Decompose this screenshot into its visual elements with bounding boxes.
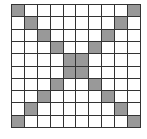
empty-cell — [38, 17, 50, 28]
empty-cell — [12, 17, 24, 28]
empty-cell — [51, 30, 63, 41]
empty-cell — [25, 116, 37, 127]
empty-cell — [12, 103, 24, 114]
empty-cell — [25, 5, 37, 16]
empty-cell — [89, 91, 101, 102]
empty-cell — [51, 54, 63, 65]
empty-cell — [12, 79, 24, 90]
empty-cell — [25, 67, 37, 78]
filled-cell — [51, 42, 63, 53]
empty-cell — [64, 30, 76, 41]
empty-cell — [38, 79, 50, 90]
empty-cell — [128, 91, 140, 102]
empty-cell — [115, 91, 127, 102]
filled-cell — [115, 103, 127, 114]
filled-cell — [64, 54, 76, 65]
empty-cell — [128, 79, 140, 90]
filled-cell — [89, 42, 101, 53]
empty-cell — [64, 5, 76, 16]
empty-cell — [76, 79, 88, 90]
empty-cell — [102, 103, 114, 114]
empty-cell — [76, 103, 88, 114]
empty-cell — [115, 5, 127, 16]
empty-cell — [115, 67, 127, 78]
empty-cell — [38, 116, 50, 127]
empty-cell — [64, 91, 76, 102]
filled-cell — [102, 91, 114, 102]
empty-cell — [89, 116, 101, 127]
filled-cell — [64, 67, 76, 78]
empty-cell — [128, 30, 140, 41]
empty-cell — [25, 30, 37, 41]
empty-cell — [25, 42, 37, 53]
empty-cell — [128, 42, 140, 53]
empty-cell — [64, 42, 76, 53]
empty-cell — [51, 116, 63, 127]
empty-cell — [76, 91, 88, 102]
empty-cell — [115, 54, 127, 65]
empty-cell — [76, 30, 88, 41]
empty-cell — [38, 103, 50, 114]
empty-cell — [76, 42, 88, 53]
empty-cell — [25, 54, 37, 65]
empty-cell — [89, 5, 101, 16]
empty-cell — [51, 67, 63, 78]
empty-cell — [38, 54, 50, 65]
filled-cell — [76, 67, 88, 78]
empty-cell — [89, 67, 101, 78]
empty-cell — [102, 116, 114, 127]
filled-cell — [12, 5, 24, 16]
empty-cell — [51, 91, 63, 102]
filled-cell — [128, 5, 140, 16]
filled-cell — [89, 79, 101, 90]
empty-cell — [102, 5, 114, 16]
filled-cell — [25, 17, 37, 28]
empty-cell — [115, 116, 127, 127]
empty-cell — [64, 79, 76, 90]
empty-cell — [89, 30, 101, 41]
empty-cell — [64, 116, 76, 127]
empty-cell — [115, 30, 127, 41]
empty-cell — [128, 17, 140, 28]
empty-cell — [76, 116, 88, 127]
filled-cell — [102, 30, 114, 41]
empty-cell — [64, 103, 76, 114]
empty-cell — [102, 42, 114, 53]
empty-cell — [128, 54, 140, 65]
empty-cell — [102, 54, 114, 65]
empty-cell — [25, 91, 37, 102]
empty-cell — [64, 17, 76, 28]
empty-cell — [51, 17, 63, 28]
empty-cell — [76, 17, 88, 28]
empty-cell — [89, 54, 101, 65]
empty-cell — [12, 67, 24, 78]
empty-cell — [115, 42, 127, 53]
empty-cell — [102, 17, 114, 28]
empty-cell — [128, 103, 140, 114]
filled-cell — [12, 116, 24, 127]
empty-cell — [38, 5, 50, 16]
empty-cell — [102, 79, 114, 90]
empty-cell — [128, 67, 140, 78]
empty-cell — [115, 79, 127, 90]
empty-cell — [89, 17, 101, 28]
filled-cell — [38, 91, 50, 102]
empty-cell — [38, 42, 50, 53]
empty-cell — [25, 79, 37, 90]
empty-cell — [12, 91, 24, 102]
empty-cell — [76, 5, 88, 16]
empty-cell — [38, 67, 50, 78]
empty-cell — [89, 103, 101, 114]
empty-cell — [102, 67, 114, 78]
empty-cell — [51, 5, 63, 16]
filled-cell — [51, 79, 63, 90]
filled-cell — [128, 116, 140, 127]
empty-cell — [51, 103, 63, 114]
filled-cell — [76, 54, 88, 65]
filled-cell — [115, 17, 127, 28]
filled-cell — [25, 103, 37, 114]
empty-cell — [12, 42, 24, 53]
empty-cell — [12, 30, 24, 41]
grid-x-pattern — [11, 4, 141, 128]
empty-cell — [12, 54, 24, 65]
